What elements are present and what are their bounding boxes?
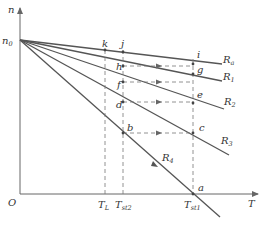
point-a: a [198,182,204,193]
tl-label: TL [98,199,109,212]
point-f: f [116,79,123,90]
point-k: k [102,38,108,49]
tst1-label: Tst1 [184,199,201,212]
origin-label: O [8,197,16,208]
point-e: e [197,89,203,100]
point-g: g [197,64,203,75]
n0-label: n0 [2,35,13,48]
ra-label: Ra [222,54,235,67]
arrow-icon [156,80,162,85]
point-j: j [119,38,124,49]
speed-torque-diagram: n T O n0 TL Tst2 Tst1 Ra R1 R2 R3 R4 k j… [0,0,267,228]
point-c: c [199,122,205,133]
point-i: i [197,49,200,60]
point-h: h [116,61,122,72]
r1-label: R1 [222,71,235,84]
point-b: b [127,122,133,133]
n-axis-label: n [8,4,14,15]
point-d: d [116,99,122,110]
arrow-icon [156,131,162,136]
tst2-label: Tst2 [115,199,132,212]
arrow-icon [156,100,162,105]
r2-label: R2 [223,96,236,109]
t-axis-label: T [248,198,256,209]
r3-label: R3 [220,135,233,148]
r4-label: R4 [161,152,174,165]
